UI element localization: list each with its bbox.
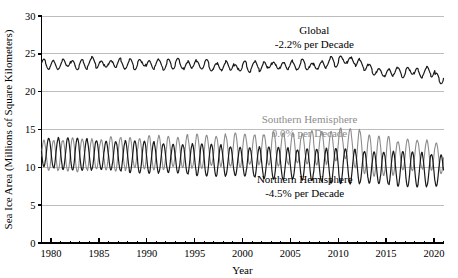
x-axis-title: Year	[232, 264, 253, 276]
x-tick-label-1985: 1985	[88, 248, 109, 259]
annotation-global-name: Global	[299, 24, 329, 36]
x-tick-label-2005: 2005	[280, 248, 301, 259]
x-tick-label-1990: 1990	[136, 248, 157, 259]
x-tick-label-2000: 2000	[232, 248, 253, 259]
annotation-northern-hemisphere-trend: -4.5% per Decade	[265, 187, 344, 199]
y-tick-label-15: 15	[25, 124, 36, 135]
x-tick-label-1980: 1980	[41, 248, 62, 259]
x-tick-label-2015: 2015	[376, 248, 397, 259]
annotation-southern-hemisphere-name: Southern Hemisphere	[262, 113, 358, 125]
x-tick-label-2010: 2010	[328, 248, 349, 259]
x-tick-label-1995: 1995	[184, 248, 205, 259]
sea-ice-area-chart: 0510152025301980198519901995200020052010…	[0, 0, 458, 278]
chart-svg: 0510152025301980198519901995200020052010…	[0, 0, 458, 278]
y-tick-label-5: 5	[30, 200, 35, 211]
annotation-global-trend: -2.2% per Decade	[275, 38, 354, 50]
x-tick-label-2020: 2020	[423, 248, 444, 259]
annotation-northern-hemisphere-name: Northern Hemisphere	[257, 173, 353, 185]
y-tick-label-25: 25	[25, 48, 36, 59]
y-tick-label-0: 0	[30, 238, 35, 249]
y-tick-label-20: 20	[25, 86, 36, 97]
y-tick-label-30: 30	[25, 11, 36, 22]
annotation-southern-hemisphere-trend: 0.0% per Decade	[272, 127, 348, 139]
y-axis-title: Sea Ice Area (Millions of Square Kilomet…	[2, 29, 15, 229]
y-tick-label-10: 10	[25, 162, 36, 173]
